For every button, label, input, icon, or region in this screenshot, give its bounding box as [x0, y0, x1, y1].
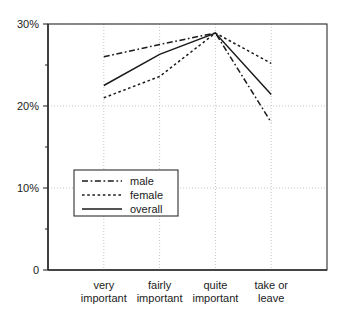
x-axis-category-label-line: take or [254, 279, 288, 291]
chart-legend: malefemaleoverall [74, 170, 178, 216]
gridlines-horizontal [48, 24, 327, 188]
x-axis-category-label: veryimportant [81, 279, 127, 304]
x-axis-category-label: take orleave [254, 279, 288, 304]
x-axis-category-label-line: leave [258, 292, 284, 304]
legend-label-overall: overall [130, 203, 162, 215]
plot-frame [48, 24, 327, 270]
x-axis-tick-labels: veryimportantfairlyimportantquiteimporta… [81, 279, 288, 304]
chart-canvas: 010%20%30% veryimportantfairlyimportantq… [0, 0, 344, 322]
y-axis-tick-labels: 010%20%30% [17, 18, 39, 276]
x-axis-category-label-line: very [93, 279, 114, 291]
gridlines-vertical [104, 24, 271, 270]
series-line-female [104, 33, 271, 98]
x-axis-category-label-line: quite [203, 279, 227, 291]
x-axis-category-label-line: important [81, 292, 127, 304]
line-chart: 010%20%30% veryimportantfairlyimportantq… [0, 0, 344, 322]
x-axis-category-label: quiteimportant [192, 279, 238, 304]
x-axis-category-label: fairlyimportant [137, 279, 183, 304]
y-axis-tick-label: 10% [17, 182, 39, 194]
x-axis-category-label-line: fairly [148, 279, 172, 291]
legend-label-male: male [130, 175, 154, 187]
series-line-overall [104, 33, 271, 94]
series-line-male [104, 33, 271, 122]
series-paths [104, 33, 271, 122]
x-axis-category-label-line: important [137, 292, 183, 304]
y-axis-tick-label: 30% [17, 18, 39, 30]
y-axis-tick-label: 20% [17, 100, 39, 112]
chart-screenshot: 010%20%30% veryimportantfairlyimportantq… [0, 0, 344, 322]
x-axis-category-label-line: important [192, 292, 238, 304]
legend-label-female: female [130, 189, 163, 201]
y-axis-tick-label: 0 [33, 264, 39, 276]
